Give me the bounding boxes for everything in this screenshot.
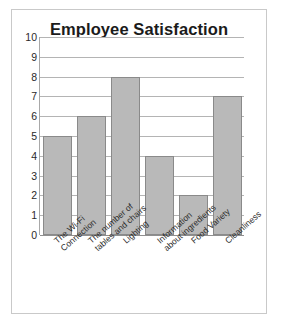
plot-wrapper: 109876543210 The Wi-FiConnectionThe numb… [16, 37, 264, 305]
x-axis: The Wi-FiConnectionThe number oftables a… [39, 237, 244, 303]
y-tick-label: 8 [16, 71, 37, 82]
y-tick-label: 6 [16, 111, 37, 122]
y-tick-label: 0 [16, 230, 37, 241]
y-tick-label: 3 [16, 170, 37, 181]
y-tick-label: 2 [16, 190, 37, 201]
y-tick-label: 4 [16, 151, 37, 162]
y-tick-label: 10 [16, 32, 37, 43]
y-tick-label: 5 [16, 131, 37, 142]
bar[interactable] [145, 156, 174, 235]
y-tick-label: 9 [16, 52, 37, 63]
y-axis: 109876543210 [16, 37, 37, 244]
y-tick-label: 7 [16, 91, 37, 102]
chart-card: Employee Satisfaction 109876543210 The W… [11, 9, 267, 314]
y-tick-label: 1 [16, 210, 37, 221]
bar[interactable] [43, 136, 72, 235]
